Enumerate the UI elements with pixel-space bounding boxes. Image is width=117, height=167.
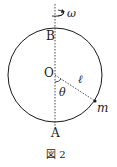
- angle-arc: [55, 79, 61, 82]
- diagram-canvas: [0, 0, 117, 167]
- point-a-label: A: [51, 127, 60, 139]
- rotation-arrow-icon: [52, 9, 65, 16]
- point-o-label: O: [44, 67, 54, 79]
- figure-caption: 図 2: [46, 150, 66, 160]
- mass-label: m: [97, 102, 108, 114]
- point-b-label: B: [46, 30, 55, 42]
- theta-label: θ: [59, 87, 66, 98]
- length-label: ℓ: [78, 74, 83, 85]
- omega-label: ω: [67, 8, 76, 19]
